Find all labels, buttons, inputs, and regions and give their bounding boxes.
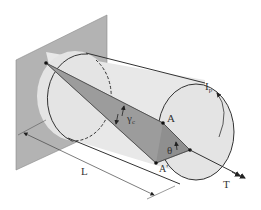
- label-torque: T: [223, 178, 230, 190]
- torsion-diagram: A A' θ γc L T Ip: [0, 0, 261, 210]
- length-extension-right: [147, 186, 175, 199]
- fixed-point: [44, 61, 48, 65]
- label-point-a-prime: A': [159, 163, 168, 174]
- label-theta: θ: [167, 144, 172, 156]
- label-polar-moment: Ip: [205, 80, 213, 94]
- label-length: L: [81, 165, 88, 177]
- label-point-a: A: [167, 112, 175, 124]
- point-a-marker: [161, 121, 165, 125]
- torque-double-arrow: [232, 172, 240, 176]
- polar-moment-subscript: p: [209, 86, 213, 94]
- point-a-prime-marker: [154, 161, 158, 165]
- gamma-subscript: c: [132, 118, 135, 126]
